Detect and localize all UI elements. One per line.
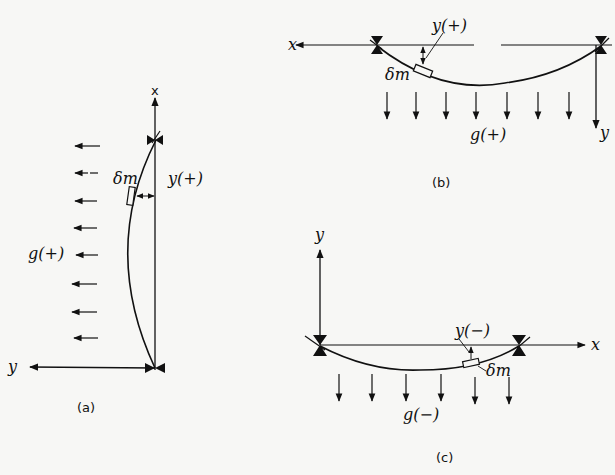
diagram-figure: x y δm y(+) g(+) (a) [0, 0, 615, 475]
x-axis-label: x [288, 35, 297, 54]
x-axis-label: x [151, 83, 159, 98]
panel-b: x y y(+) δm g(+) (b) [288, 16, 612, 190]
displacement-label: y(+) [431, 16, 467, 35]
y-axis-label: y [7, 357, 18, 376]
y-axis-label: y [314, 225, 325, 244]
deflected-string [377, 46, 601, 85]
mass-label: δm [113, 169, 138, 188]
y-axis-line [30, 367, 155, 368]
gravity-label: g(+) [28, 244, 64, 263]
displacement-label: y(−) [454, 321, 490, 340]
gravity-arrows [339, 374, 509, 404]
mass-label: δm [486, 361, 511, 380]
string-deflection-diagram: x y δm y(+) g(+) (a) [0, 0, 615, 475]
gravity-arrows [72, 146, 100, 338]
caption-b: (b) [432, 175, 450, 190]
y-axis-label: y [599, 123, 610, 142]
mass-label: δm [385, 65, 410, 84]
caption-a: (a) [77, 400, 95, 415]
gravity-label: g(+) [470, 125, 506, 144]
gravity-label: g(−) [403, 405, 439, 424]
caption-c: (c) [436, 450, 453, 465]
mass-element-icon [463, 358, 480, 367]
panel-a: x y δm y(+) g(+) (a) [7, 83, 203, 415]
x-axis-label: x [591, 335, 600, 354]
displacement-label: y(+) [167, 169, 203, 188]
mass-element-icon [413, 64, 432, 77]
panel-c: y x y(−) δm g(−) (c) [305, 225, 600, 465]
gravity-arrows [387, 92, 569, 119]
